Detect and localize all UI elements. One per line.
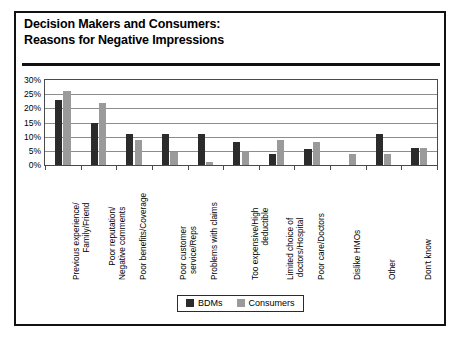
x-axis-label: Too expensive/Highdeductible [251, 208, 270, 280]
x-axis-label-line: Problems with claims [209, 202, 219, 280]
chart-legend: BDMs Consumers [177, 295, 304, 312]
title-divider [22, 63, 440, 66]
x-axis-label: Don't know [424, 239, 434, 280]
x-axis-label-line: deductible [260, 208, 270, 280]
x-axis-label: Poor care/Doctors [317, 213, 327, 280]
x-axis-label-line: Negative comments [118, 207, 128, 280]
bar-bdms [233, 142, 240, 165]
y-axis-tick-label: 10% [1, 132, 41, 142]
bar-consumers [170, 152, 177, 165]
gray-square-swatch-icon [237, 299, 245, 307]
bar-consumers [63, 91, 70, 165]
x-axis-label-line: doctors/Hospital [296, 218, 306, 280]
x-axis-label-line: Dislike HMOs [352, 230, 362, 280]
bar-consumers [99, 103, 106, 165]
x-axis-label-line: Previous experience/ [71, 203, 81, 280]
bar-consumers [135, 140, 142, 166]
bar-bdms [162, 134, 169, 165]
chart-figure: Decision Makers and Consumers: Reasons f… [0, 0, 460, 341]
x-axis-label-line: Poor care/Doctors [316, 213, 326, 280]
legend-label-bdms: BDMs [198, 298, 223, 308]
legend-label-consumers: Consumers [249, 298, 295, 308]
bar-bdms [304, 149, 311, 165]
x-axis-tick [437, 166, 438, 170]
bar-consumers [206, 162, 213, 165]
x-axis-label-line: Too expensive/High [250, 208, 260, 280]
y-axis-tick-label: 5% [1, 146, 41, 156]
bar-bdms [269, 154, 276, 165]
x-axis-label-line: Poor customer [178, 226, 188, 280]
chart-title: Decision Makers and Consumers: Reasons f… [24, 17, 424, 48]
bar-bdms [126, 134, 133, 165]
chart-title-line-1: Decision Makers and Consumers: [24, 17, 424, 33]
x-axis-label-line: Poor benefits/Coverage [138, 193, 148, 280]
bar-consumers [313, 142, 320, 165]
y-axis-tick-label: 20% [1, 103, 41, 113]
legend-item-consumers: Consumers [237, 298, 295, 308]
bar-bdms [198, 134, 205, 165]
y-axis-tick-labels: 30%25%20%15%10%5%0% [0, 79, 41, 166]
y-axis-tick-label: 15% [1, 118, 41, 128]
bar-bdms [376, 134, 383, 165]
x-axis-label: Poor benefits/Coverage [139, 193, 149, 280]
x-axis-label-line: Family/Friend [82, 203, 92, 280]
bar-consumers [277, 140, 284, 166]
bar-consumers [384, 154, 391, 165]
dark-square-swatch-icon [186, 299, 194, 307]
bar-bdms [55, 100, 62, 165]
bar-consumers [349, 154, 356, 165]
y-axis-tick-label: 30% [1, 75, 41, 85]
chart-title-line-2: Reasons for Negative Impressions [24, 33, 424, 49]
x-axis-label: Limited choice ofdoctors/Hospital [286, 218, 305, 280]
x-axis-label: Poor reputation/Negative comments [108, 207, 127, 280]
x-axis-label-line: Don't know [423, 239, 433, 280]
y-axis-tick-label: 25% [1, 89, 41, 99]
x-axis-label-line: service/Reps [189, 226, 199, 280]
x-axis-label: Other [388, 259, 398, 280]
bar-bdms [91, 123, 98, 166]
legend-item-bdms: BDMs [186, 298, 223, 308]
x-axis-label: Poor customerservice/Reps [179, 226, 198, 280]
bar-series-container [45, 80, 437, 165]
x-axis-label: Problems with claims [210, 202, 220, 280]
bar-consumers [420, 148, 427, 165]
x-axis-category-labels: Previous experience/Family/FriendPoor re… [45, 170, 437, 282]
x-axis-label-line: Other [387, 259, 397, 280]
y-axis-tick-label: 0% [1, 160, 41, 170]
x-axis-label: Dislike HMOs [353, 230, 363, 280]
bar-bdms [411, 148, 418, 165]
bar-consumers [242, 151, 249, 165]
x-axis-label: Previous experience/Family/Friend [72, 203, 91, 280]
x-axis-label-line: Poor reputation/ [107, 207, 117, 266]
x-axis-label-line: Limited choice of [285, 218, 295, 280]
